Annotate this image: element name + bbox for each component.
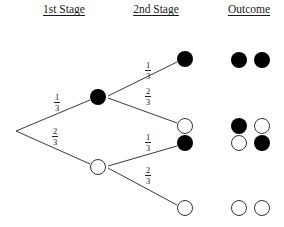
- prob-label-stage2-black-upper: 1 3: [145, 61, 151, 80]
- branch-black-to-white: [108, 98, 177, 123]
- prob-label-stage2-white-lower: 2 3: [145, 166, 151, 185]
- tree-graphic: [0, 0, 284, 227]
- denominator: 3: [55, 104, 59, 112]
- stage1-nodes: [90, 89, 106, 175]
- probability-tree-diagram: 1st Stage 2nd Stage Outcome: [0, 0, 284, 227]
- branches: [16, 62, 177, 205]
- outcome-black-ball-icon: [231, 52, 247, 68]
- stage2-black-ball-icon: [177, 51, 193, 67]
- stage2-white-ball-icon: [178, 201, 193, 216]
- outcome-white-ball-icon: [255, 201, 270, 216]
- outcome-black-ball-icon: [231, 118, 247, 134]
- numerator: 1: [55, 93, 59, 101]
- prob-label-stage1-top: 1 3: [54, 93, 60, 112]
- numerator: 2: [53, 127, 57, 135]
- outcome-black-ball-icon: [254, 52, 270, 68]
- outcome-black-ball-icon: [254, 135, 270, 151]
- outcome-white-ball-icon: [232, 136, 247, 151]
- stage2-nodes: [177, 51, 193, 216]
- outcome-white-ball-icon: [255, 119, 270, 134]
- branch-white-to-black: [108, 146, 177, 166]
- numerator: 2: [146, 87, 150, 95]
- stage2-white-ball-icon: [178, 119, 193, 134]
- denominator: 3: [53, 138, 57, 146]
- denominator: 3: [146, 144, 150, 152]
- stage1-white-ball-icon: [91, 160, 106, 175]
- prob-label-stage1-bottom: 2 3: [52, 127, 58, 146]
- stage1-black-ball-icon: [90, 89, 106, 105]
- numerator: 2: [146, 166, 150, 174]
- branch-black-to-black: [108, 62, 177, 96]
- outcome-nodes: [231, 52, 270, 216]
- numerator: 1: [146, 133, 150, 141]
- branch-white-to-white: [108, 168, 177, 205]
- denominator: 3: [146, 177, 150, 185]
- denominator: 3: [146, 72, 150, 80]
- numerator: 1: [146, 61, 150, 69]
- prob-label-stage2-white-upper: 1 3: [145, 133, 151, 152]
- outcome-white-ball-icon: [232, 201, 247, 216]
- denominator: 3: [146, 98, 150, 106]
- stage2-black-ball-icon: [177, 135, 193, 151]
- prob-label-stage2-black-lower: 2 3: [145, 87, 151, 106]
